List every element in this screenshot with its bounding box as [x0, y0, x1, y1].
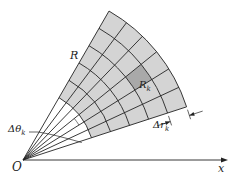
- delta-r-tick: [188, 110, 191, 120]
- region-label: R: [70, 50, 78, 61]
- x-axis-label: x: [218, 163, 224, 174]
- cell-label-text: R: [139, 79, 147, 90]
- cell-label-sub: k: [147, 85, 151, 93]
- origin-label: O: [12, 161, 22, 173]
- delta-r-label: Δrk: [153, 120, 169, 133]
- polar-region-diagram: O x R Rk Δθk Δrk: [0, 0, 236, 186]
- cell-label: Rk: [139, 80, 151, 93]
- delta-theta-sub: k: [21, 129, 25, 137]
- delta-theta-arc: [74, 118, 79, 125]
- delta-r-text: Δr: [153, 119, 165, 130]
- delta-theta-label: Δθk: [8, 124, 26, 137]
- diagram-canvas: [0, 0, 236, 186]
- delta-theta-text: Δθ: [8, 123, 21, 134]
- grid-cells: [59, 11, 187, 138]
- delta-r-sub: k: [165, 125, 169, 133]
- arrowhead-icon: [189, 112, 194, 116]
